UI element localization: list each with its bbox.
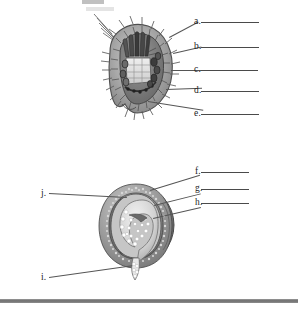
footer-divider: [0, 299, 298, 303]
answer-line-b[interactable]: [201, 47, 259, 48]
answer-line-c[interactable]: [201, 70, 258, 71]
label-h: h.: [195, 197, 203, 207]
label-b: b.: [194, 41, 202, 51]
label-g: g.: [195, 183, 203, 193]
answer-line-a[interactable]: [201, 22, 259, 23]
label-a: a.: [194, 16, 201, 26]
answer-line-h[interactable]: [201, 203, 249, 204]
label-e: e.: [194, 108, 201, 118]
gut-mass: [126, 58, 151, 84]
answer-line-f[interactable]: [201, 172, 249, 173]
attachment-stalk: [132, 258, 140, 280]
label-d: d.: [194, 85, 202, 95]
cropped-heading-mark: [82, 0, 104, 4]
label-c: c.: [194, 64, 201, 74]
answer-line-e[interactable]: [201, 114, 259, 115]
label-i: i.: [41, 272, 46, 282]
cropped-heading-ghost: [86, 7, 114, 11]
answer-line-g[interactable]: [201, 189, 249, 190]
spiny-organism-figure: [92, 12, 184, 130]
answer-line-d[interactable]: [201, 91, 259, 92]
label-f: f.: [195, 166, 201, 176]
label-j: j.: [41, 188, 46, 198]
worksheet-page: a. b. c. d. e.: [0, 0, 298, 317]
spherical-embryo-figure: [93, 176, 179, 288]
